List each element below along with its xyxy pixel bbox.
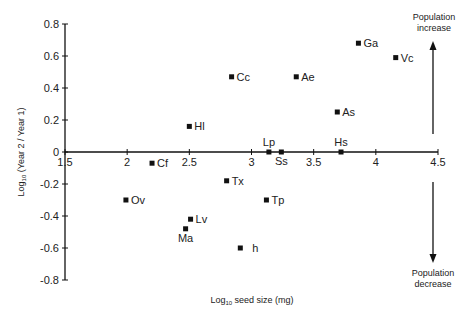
y-tick-label: 0.8 bbox=[44, 18, 59, 30]
square-marker-icon bbox=[150, 161, 155, 166]
square-marker-icon bbox=[266, 150, 271, 155]
point-label: Ga bbox=[363, 37, 379, 49]
y-tick-label: -0.8 bbox=[40, 274, 59, 286]
population-increase-label-2: increase bbox=[417, 23, 451, 33]
data-point-hl: Hl bbox=[187, 120, 205, 132]
data-point-as: As bbox=[335, 106, 356, 118]
data-point-ga: Ga bbox=[356, 37, 379, 49]
x-tick-label: 4.5 bbox=[430, 156, 445, 168]
population-decrease-label: Population bbox=[412, 268, 455, 278]
square-marker-icon bbox=[339, 150, 344, 155]
square-marker-icon bbox=[393, 55, 398, 60]
data-point-cf: Cf bbox=[150, 157, 169, 169]
square-marker-icon bbox=[183, 226, 188, 231]
x-tick-label: 4 bbox=[373, 156, 379, 168]
data-point-ma: Ma bbox=[178, 226, 194, 244]
square-marker-icon bbox=[279, 150, 284, 155]
data-points: GaVcCcAeAsHlLpSsHsCfTxOvTpLvMah bbox=[123, 37, 414, 254]
scatter-chart: 0.80.60.40.20-0.2-0.4-0.6-0.81.522.533.5… bbox=[0, 0, 469, 316]
y-axis-title: Log10 (Year 2 / Year 1) bbox=[16, 108, 27, 197]
point-label: Lp bbox=[263, 136, 275, 148]
point-label: Ov bbox=[131, 194, 146, 206]
x-tick-label: 2 bbox=[124, 156, 130, 168]
x-tick-label: 3 bbox=[248, 156, 254, 168]
y-tick-label: -0.6 bbox=[40, 242, 59, 254]
square-marker-icon bbox=[123, 198, 128, 203]
y-tick-label: 0.2 bbox=[44, 114, 59, 126]
point-label: Vc bbox=[401, 52, 414, 64]
square-marker-icon bbox=[238, 246, 243, 251]
y-tick-label: 0.6 bbox=[44, 50, 59, 62]
data-point-ov: Ov bbox=[123, 194, 145, 206]
x-tick-label: 3.5 bbox=[306, 156, 321, 168]
arrow-down-icon bbox=[430, 182, 437, 263]
point-label: As bbox=[342, 106, 355, 118]
point-label: Tp bbox=[271, 194, 284, 206]
axes: 0.80.60.40.20-0.2-0.4-0.6-0.81.522.533.5… bbox=[40, 18, 446, 286]
y-tick-label: -0.2 bbox=[40, 178, 59, 190]
y-tick-label: 0.4 bbox=[44, 82, 59, 94]
square-marker-icon bbox=[188, 217, 193, 222]
data-point-tp: Tp bbox=[264, 194, 284, 206]
point-label: Cf bbox=[157, 157, 169, 169]
point-label: Tx bbox=[232, 175, 245, 187]
square-marker-icon bbox=[356, 41, 361, 46]
data-point-cc: Cc bbox=[229, 71, 250, 83]
square-marker-icon bbox=[224, 178, 229, 183]
data-point-h: h bbox=[238, 242, 259, 254]
point-label: Ma bbox=[178, 232, 194, 244]
x-axis-title: Log10 seed size (mg) bbox=[210, 295, 293, 306]
y-tick-label: -0.4 bbox=[40, 210, 59, 222]
x-tick-label: 1.5 bbox=[57, 156, 72, 168]
point-label: Lv bbox=[196, 213, 208, 225]
point-label: Ae bbox=[301, 71, 314, 83]
population-decrease-label-2: decrease bbox=[414, 279, 451, 289]
data-point-ae: Ae bbox=[294, 71, 315, 83]
data-point-lv: Lv bbox=[188, 213, 208, 225]
point-label: Hl bbox=[194, 120, 204, 132]
data-point-vc: Vc bbox=[393, 52, 414, 64]
point-label: h bbox=[252, 242, 258, 254]
square-marker-icon bbox=[294, 74, 299, 79]
square-marker-icon bbox=[264, 198, 269, 203]
point-label: Hs bbox=[334, 136, 348, 148]
point-label: Ss bbox=[275, 155, 288, 167]
x-tick-label: 2.5 bbox=[182, 156, 197, 168]
population-increase-label: Population bbox=[413, 12, 456, 22]
data-point-tx: Tx bbox=[224, 175, 244, 187]
point-label: Cc bbox=[237, 71, 251, 83]
arrow-up-icon bbox=[430, 41, 437, 134]
square-marker-icon bbox=[229, 74, 234, 79]
square-marker-icon bbox=[187, 124, 192, 129]
square-marker-icon bbox=[335, 110, 340, 115]
